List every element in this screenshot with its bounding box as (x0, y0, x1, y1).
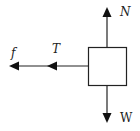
arrowhead-up-icon (103, 7, 112, 17)
free-body-diagram: N W T f (0, 0, 140, 131)
normal-force-arrow (103, 7, 112, 47)
weight-force-arrow (103, 86, 112, 123)
arrowhead-down-icon (103, 113, 112, 123)
label-t: T (52, 42, 61, 56)
label-n: N (119, 5, 131, 19)
block (89, 48, 127, 86)
label-f: f (10, 46, 18, 60)
tension-friction-arrow (9, 62, 88, 71)
arrowhead-left-icon (47, 62, 57, 71)
arrowhead-left-icon (9, 62, 19, 71)
label-w: W (120, 111, 133, 125)
